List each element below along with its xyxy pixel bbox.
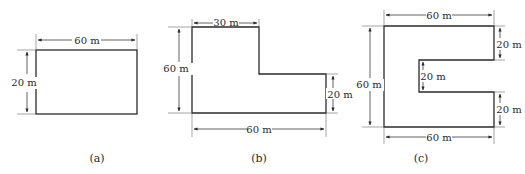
dimension-left-height: 60 m [354, 28, 384, 125]
dimension-label: 20 m [11, 77, 37, 88]
dimension-label: 20 m [496, 39, 522, 50]
dimension-label: 60 m [74, 35, 100, 46]
dimension-left-height: 60 m [162, 29, 194, 111]
dimension-upper-arm-height: 20 m [495, 28, 525, 58]
figure-caption: (b) [251, 152, 267, 165]
figure-canvas: 60 m 20 m (a) 30 m [0, 0, 525, 174]
dimension-top-width: 60 m [386, 10, 492, 21]
dimension-lower-arm-height: 20 m [495, 94, 525, 125]
figure-caption: (c) [414, 152, 429, 165]
dimension-bottom-width: 60 m [386, 132, 492, 143]
dimension-label: 20 m [327, 89, 353, 100]
dimension-label: 60 m [426, 10, 452, 21]
dimension-top-width: 60 m [38, 35, 135, 46]
dimension-left-height: 20 m [9, 52, 39, 112]
figure-a: 60 m 20 m (a) [9, 34, 137, 165]
figure-caption: (a) [89, 152, 104, 165]
dimension-label: 20 m [496, 104, 522, 115]
dimension-label: 60 m [356, 79, 382, 90]
dimension-bottom-width: 60 m [194, 124, 324, 135]
dimension-label: 60 m [426, 132, 452, 143]
figure-c: 60 m 60 m 20 m 20 m 20 m [354, 10, 525, 165]
dimension-right-step-height: 20 m [326, 76, 354, 111]
dimension-label: 30 m [213, 17, 239, 28]
dimension-notch-height: 20 m [420, 62, 448, 90]
figure-b: 30 m 60 m 20 m 60 m (b) [162, 17, 354, 165]
dimension-label: 60 m [163, 63, 189, 74]
dimension-label: 60 m [246, 124, 272, 135]
l-shape [192, 27, 326, 113]
dimension-label: 20 m [420, 71, 446, 82]
rectangle-shape [36, 50, 137, 114]
